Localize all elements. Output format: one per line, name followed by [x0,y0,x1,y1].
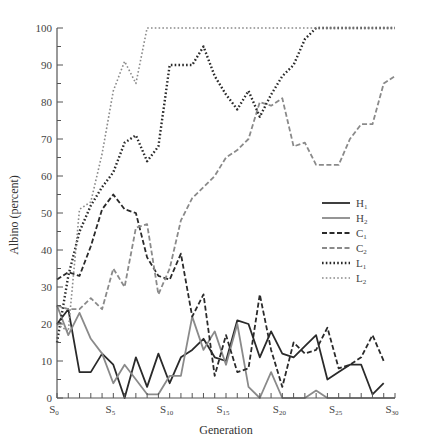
x-axis: S0S5S10S15S20S25S30 [49,393,399,417]
y-tick-label: 60 [41,170,53,182]
series-c2 [57,76,395,309]
y-tick-label: 50 [41,207,53,219]
legend-label: C1 [356,227,367,241]
x-tick-label: S20 [273,403,287,417]
y-axis-title: Albino (percent) [7,175,21,255]
y-tick-label: 90 [41,59,53,71]
y-tick-label: 70 [41,133,53,145]
y-tick-label: 40 [41,244,53,256]
legend-label: H1 [356,197,368,211]
series-l1 [57,28,395,343]
x-tick-label: S15 [216,403,230,417]
line-chart: 0102030405060708090100 S0S5S10S15S20S25S… [0,0,424,442]
legend-label: L1 [356,257,367,271]
x-tick-label: S30 [385,403,399,417]
series-h2 [57,306,395,399]
x-tick-label: S0 [49,403,59,417]
legend: H1H2C1C2L1L2 [322,197,368,286]
x-axis-title: Generation [199,423,252,437]
y-tick-label: 20 [41,318,53,330]
y-tick-label: 10 [41,355,53,367]
legend-label: H2 [356,212,368,226]
y-axis: 0102030405060708090100 [36,22,64,404]
x-tick-label: S10 [160,403,174,417]
y-tick-label: 80 [41,96,53,108]
y-tick-label: 30 [41,281,53,293]
y-tick-label: 100 [36,22,53,34]
x-tick-label: S25 [329,403,343,417]
legend-label: L2 [356,272,367,286]
plot-series [57,28,395,398]
x-tick-label: S5 [106,403,116,417]
legend-label: C2 [356,242,367,256]
